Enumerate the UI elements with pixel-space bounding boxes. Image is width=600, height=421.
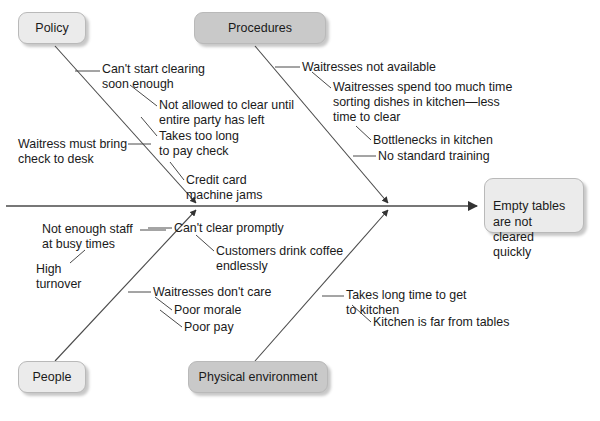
cause-no-standard-training: No standard training — [378, 149, 490, 164]
cause-takes-long-time-to-kitchen: Takes long time to get to kitchen — [346, 288, 467, 318]
category-box-procedures[interactable]: Procedures — [194, 12, 326, 44]
cause-poor-pay: Poor pay — [184, 320, 234, 335]
cause-waitresses-not-available: Waitresses not available — [302, 60, 436, 75]
cause-waitresses-sorting-dishes: Waitresses spend too much time sorting d… — [333, 80, 512, 125]
cause-bottlenecks-in-kitchen: Bottlenecks in kitchen — [373, 133, 493, 148]
cause-customers-drink-coffee: Customers drink coffee endlessly — [216, 244, 343, 274]
category-label-procedures: Procedures — [228, 21, 292, 36]
connector-takes-too-long-pay-check — [141, 117, 157, 136]
connector-credit-card-machine-jams — [170, 162, 184, 180]
category-box-policy[interactable]: Policy — [18, 12, 86, 44]
cause-takes-too-long-pay-check: Takes too long to pay check — [159, 129, 239, 159]
cause-not-enough-staff: Not enough staff at busy times — [42, 222, 133, 252]
connector-bottlenecks-in-kitchen — [356, 126, 371, 140]
cause-cant-clear-promptly: Can't clear promptly — [174, 221, 284, 236]
connector-customers-drink-coffee — [196, 235, 214, 251]
cause-kitchen-far-from-tables: Kitchen is far from tables — [373, 315, 509, 330]
cause-not-allowed-to-clear: Not allowed to clear until entire party … — [159, 98, 294, 128]
category-label-physical-environment: Physical environment — [199, 370, 318, 385]
cause-cant-start-clearing: Can't start clearing soon enough — [102, 62, 205, 92]
cause-waitress-must-bring-check: Waitress must bring check to desk — [18, 137, 127, 167]
cause-credit-card-machine-jams: Credit card machine jams — [186, 173, 262, 203]
category-box-people[interactable]: People — [18, 361, 86, 393]
cause-high-turnover: High turnover — [36, 262, 81, 292]
fishbone-diagram: Policy Procedures People Physical enviro… — [0, 0, 600, 421]
effect-box[interactable]: Empty tables are not cleared quickly — [484, 178, 584, 233]
category-label-policy: Policy — [35, 21, 68, 36]
category-box-physical-environment[interactable]: Physical environment — [188, 361, 328, 393]
category-label-people: People — [33, 370, 72, 385]
cause-waitresses-dont-care: Waitresses don't care — [153, 285, 271, 300]
cause-poor-morale: Poor morale — [174, 303, 242, 318]
